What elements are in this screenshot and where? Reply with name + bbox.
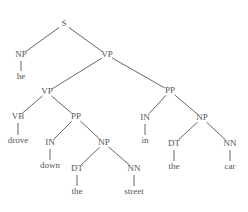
tree-edge [54, 121, 72, 139]
parse-tree-diagram: SNPheVPVPVBdrovePPINdownNPDTtheNNstreetP… [0, 0, 248, 212]
tree-leaf-word: he [17, 71, 26, 81]
tree-node-label: IN [45, 137, 55, 147]
tree-edge [69, 28, 102, 52]
tree-node-label: DT [168, 138, 180, 148]
tree-node-labels: SNPheVPVPVBdrovePPINdownNPDTtheNNstreetP… [8, 18, 237, 196]
tree-node-label: DT [71, 163, 83, 173]
tree-edge [178, 122, 197, 140]
tree-edge [23, 96, 43, 113]
tree-node-label: PP [165, 85, 175, 95]
tree-node-label: VP [41, 86, 53, 96]
tree-edge [149, 95, 166, 113]
tree-node-label: PP [71, 111, 81, 121]
tree-edge [109, 147, 130, 165]
tree-leaf-word: in [141, 135, 149, 145]
tree-edge [112, 58, 165, 88]
tree-leaf-word: drove [8, 135, 29, 145]
tree-leaf-word: the [169, 161, 180, 171]
tree-edge [52, 58, 102, 89]
tree-node-label: IN [140, 112, 150, 122]
tree-leaf-word: the [72, 186, 83, 196]
tree-edge [81, 147, 99, 165]
tree-leaf-word: down [40, 160, 60, 170]
tree-leaf-word: street [124, 186, 144, 196]
tree-node-label: NN [128, 163, 141, 173]
tree-edge [175, 95, 198, 114]
tree-leaf-word: car [225, 161, 236, 171]
tree-node-label: NN [224, 138, 237, 148]
tree-edge [52, 96, 72, 113]
tree-node-label: NP [196, 112, 208, 122]
tree-node-label: VP [101, 49, 113, 59]
tree-edge [26, 28, 59, 52]
tree-node-label: NP [98, 137, 110, 147]
tree-node-label: NP [15, 49, 27, 59]
tree-edge [80, 121, 99, 139]
tree-node-label: VB [12, 111, 25, 121]
tree-node-label: S [61, 18, 66, 28]
